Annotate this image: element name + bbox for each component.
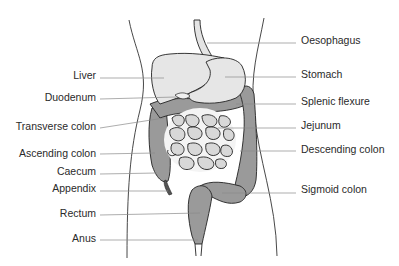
label-caecum: Caecum [57,165,96,177]
label-anus: Anus [72,232,96,244]
label-stomach: Stomach [301,68,342,80]
label-transverse-colon: Transverse colon [16,120,96,132]
label-sigmoid-colon: Sigmoid colon [301,183,367,195]
label-liver: Liver [73,69,96,81]
label-oesophagus: Oesophagus [301,34,361,46]
rectum [188,186,212,244]
label-duodenum: Duodenum [45,91,96,103]
label-ascending-colon: Ascending colon [19,147,96,159]
label-appendix: Appendix [52,182,96,194]
small-intestine [164,108,236,172]
anus [195,244,202,256]
label-jejunum: Jejunum [301,119,341,131]
label-rectum: Rectum [60,207,96,219]
body-outline-left [127,20,143,258]
appendix [164,180,172,195]
label-splenic-flexure: Splenic flexure [301,95,370,107]
label-descending-colon: Descending colon [301,143,384,155]
